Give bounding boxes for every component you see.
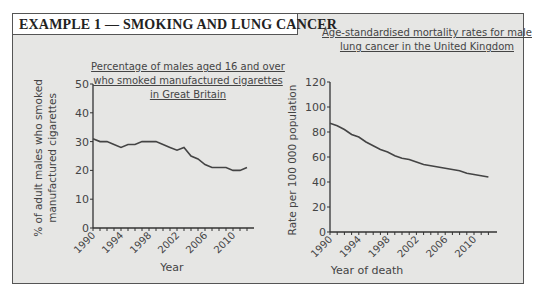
- chart-smoking-title-1: Percentage of males aged 16 and over: [91, 61, 286, 72]
- x-tick-label: 1994: [100, 230, 126, 256]
- y-tick-label: 80: [312, 126, 326, 139]
- charts-canvas: Percentage of males aged 16 and over who…: [0, 0, 537, 296]
- y-tick-label: 50: [75, 78, 89, 91]
- chart-smoking-title-2: who smoked manufactured cigarettes: [93, 75, 283, 86]
- x-tick-label: 1998: [366, 234, 392, 260]
- x-tick-label: 2006: [184, 230, 210, 256]
- chart-smoking-xlabel: Year: [159, 261, 184, 274]
- x-tick-label: 2002: [395, 234, 421, 260]
- chart-mortality-xlabel: Year of death: [330, 264, 404, 277]
- x-tick-label: 2006: [424, 234, 450, 260]
- x-tick-label: 1994: [337, 234, 363, 260]
- y-tick-label: 40: [75, 107, 89, 120]
- y-tick-label: 30: [75, 136, 89, 149]
- x-tick-label: 1998: [128, 230, 154, 256]
- chart-smoking-ylabel-1: % of adult males who smoked: [32, 79, 44, 237]
- y-tick-label: 120: [305, 76, 326, 89]
- chart-smoking-axes: 01020304050199019941998200220062010: [72, 78, 254, 255]
- chart-mortality-axes: 020406080100120199019941998200220062010: [305, 76, 497, 259]
- chart-smoking-title-3: in Great Britain: [150, 89, 226, 100]
- y-tick-label: 100: [305, 101, 326, 114]
- y-tick-label: 40: [312, 176, 326, 189]
- x-tick-label: 2010: [212, 230, 238, 256]
- x-tick-label: 1990: [309, 234, 335, 260]
- x-tick-label: 2010: [453, 234, 479, 260]
- chart-mortality-title-2: lung cancer in the United Kingdom: [340, 41, 514, 52]
- chart-smoking-line: [93, 139, 247, 171]
- chart-mortality-ylabel: Rate per 100 000 population: [286, 85, 298, 236]
- y-tick-label: 60: [312, 151, 326, 164]
- chart-mortality-title-1: Age-standardised mortality rates for mal…: [322, 27, 532, 38]
- chart-mortality: Age-standardised mortality rates for mal…: [286, 27, 532, 277]
- y-tick-label: 20: [75, 164, 89, 177]
- y-tick-label: 20: [312, 201, 326, 214]
- y-tick-label: 10: [75, 193, 89, 206]
- chart-mortality-line: [330, 123, 488, 177]
- chart-smoking: Percentage of males aged 16 and over who…: [32, 61, 286, 274]
- x-tick-label: 2002: [156, 230, 182, 256]
- chart-smoking-ylabel-2: manufactured cigarettes: [46, 93, 58, 223]
- x-tick-label: 1990: [72, 230, 98, 256]
